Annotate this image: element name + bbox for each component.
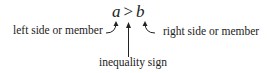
arrows xyxy=(0,0,267,73)
